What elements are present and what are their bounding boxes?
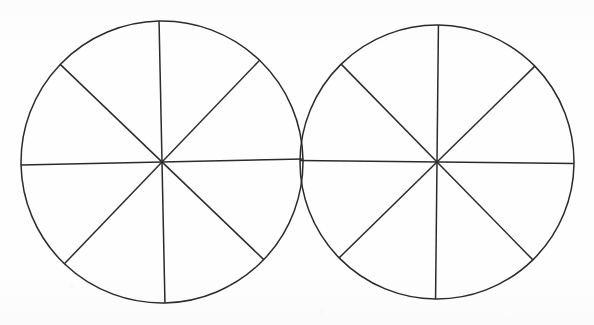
fraction-circles-figure xyxy=(0,0,594,325)
figure-canvas xyxy=(0,0,594,325)
